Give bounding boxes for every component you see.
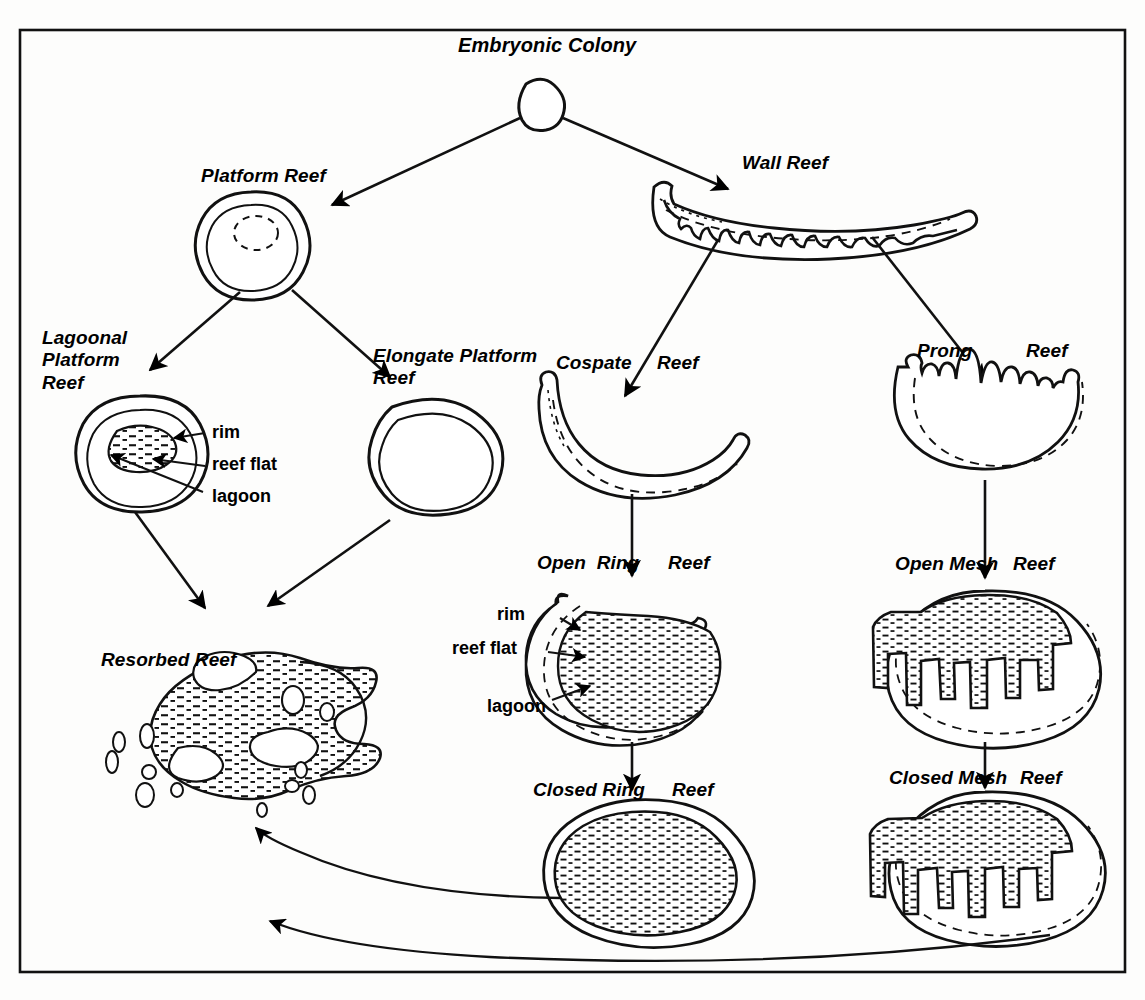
label-lagoonal-platform-reef: Lagoonal Platform Reef — [42, 327, 127, 394]
label-closed-ring-reef-word2: Reef — [672, 779, 714, 801]
reef-diagram-svg — [0, 0, 1145, 1000]
elongate-platform-reef-shape — [369, 399, 503, 515]
annotation-reef-flat-platform: reef flat — [212, 455, 277, 475]
label-open-mesh-reef-word1: Open Mesh — [895, 553, 998, 575]
closed-mesh-reef-shape — [870, 792, 1105, 947]
open-ring-reef-shape — [526, 594, 720, 746]
label-closed-mesh-reef-word2: Reef — [1020, 767, 1062, 789]
platform-reef-shape — [195, 192, 310, 300]
label-cospate-reef-word2: Reef — [657, 352, 699, 374]
annotation-reef-flat-ring: reef flat — [452, 639, 517, 659]
label-wall-reef: Wall Reef — [742, 152, 828, 174]
label-embryonic-colony: Embryonic Colony — [458, 34, 636, 58]
label-closed-mesh-reef-word1: Closed Mesh — [889, 767, 1007, 789]
arrow-closed-ring-to-resorbed — [256, 828, 560, 898]
arrow-embryonic-to-wall — [563, 118, 728, 189]
diagram-canvas: Embryonic Colony Platform Reef Wall Reef… — [0, 0, 1145, 1000]
label-elongate-platform-reef: Elongate Platform Reef — [373, 345, 537, 390]
label-cospate-reef-word1: Cospate — [556, 352, 632, 374]
lagoonal-platform-reef-shape — [76, 396, 208, 512]
annotation-lagoon-ring: lagoon — [487, 697, 546, 717]
open-mesh-reef-shape — [873, 591, 1101, 748]
arrow-elongate-to-resorbed — [268, 520, 390, 606]
label-prong-reef-word2: Reef — [1026, 340, 1068, 362]
prong-reef-shape — [894, 349, 1083, 469]
resorbed-reef-shape — [106, 652, 381, 817]
label-open-ring-reef-word2: Reef — [668, 552, 710, 574]
annotation-rim-platform: rim — [212, 423, 240, 443]
annotation-lagoon-platform: lagoon — [212, 487, 271, 507]
embryonic-colony-shape — [519, 79, 565, 130]
label-prong-reef-word1: Prong — [917, 340, 972, 362]
arrow-platform-to-lagoonal — [150, 292, 240, 370]
closed-ring-reef-shape — [544, 800, 755, 948]
label-closed-ring-reef-word1: Closed Ring — [533, 779, 645, 801]
arrow-lagoonal-to-resorbed — [135, 512, 205, 608]
label-open-ring-reef-word1: Open Ring — [537, 552, 639, 574]
cospate-reef-shape — [539, 372, 749, 499]
wall-reef-shape — [653, 182, 977, 259]
arrow-embryonic-to-platform — [332, 118, 520, 205]
annotation-rim-ring: rim — [497, 605, 525, 625]
label-resorbed-reef: Resorbed Reef — [101, 649, 236, 671]
label-platform-reef: Platform Reef — [201, 165, 326, 187]
label-open-mesh-reef-word2: Reef — [1013, 553, 1055, 575]
